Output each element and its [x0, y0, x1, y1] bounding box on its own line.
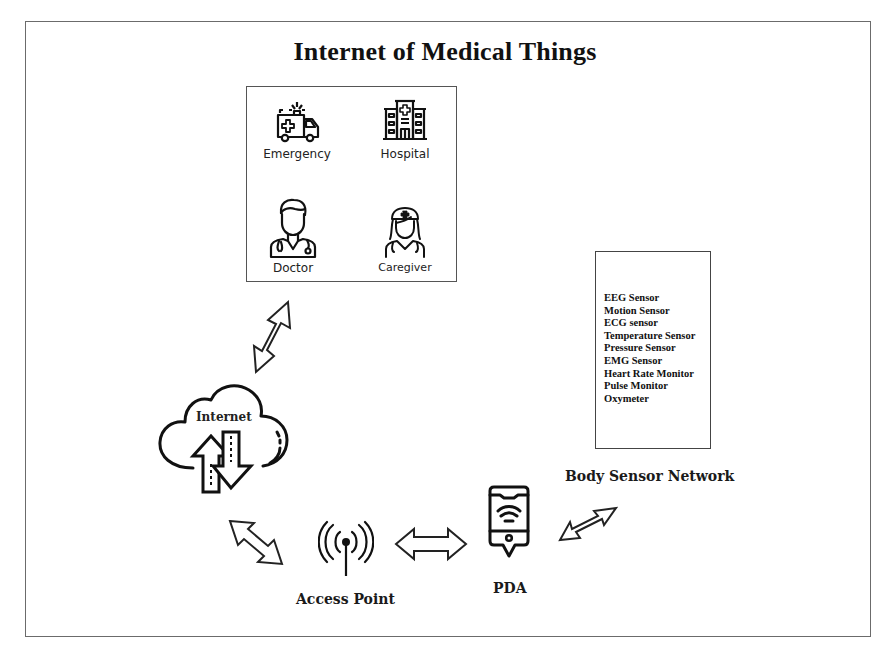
- care-item-hospital: Hospital: [365, 95, 445, 161]
- care-item-label: Hospital: [365, 147, 445, 161]
- access-point-label: Access Point: [296, 591, 395, 607]
- doctor-icon: [267, 197, 319, 259]
- sensor-item: Heart Rate Monitor: [604, 368, 695, 381]
- sensor-item: Pressure Sensor: [604, 342, 695, 355]
- care-item-label: Caregiver: [365, 261, 445, 274]
- hospital-icon: [380, 95, 430, 145]
- care-item-caregiver: Caregiver: [365, 205, 445, 274]
- sensor-item: EMG Sensor: [604, 355, 695, 368]
- body-sensor-network-label: Body Sensor Network: [565, 468, 734, 484]
- sensor-item: Motion Sensor: [604, 305, 695, 318]
- care-providers-box: Emergency Hospital: [246, 86, 457, 282]
- sensor-item: Oxymeter: [604, 393, 695, 406]
- pda-label: PDA: [493, 580, 527, 596]
- care-item-doctor: Doctor: [253, 197, 333, 275]
- diagram-title: Internet of Medical Things: [0, 37, 890, 67]
- ambulance-icon: [272, 97, 322, 145]
- nurse-icon: [383, 205, 427, 259]
- antenna-signal-icon: [318, 520, 374, 576]
- sensor-item: Pulse Monitor: [604, 380, 695, 393]
- bidirectional-arrow-icon: [248, 298, 296, 378]
- sensor-list: EEG Sensor Motion Sensor ECG sensor Temp…: [604, 292, 695, 405]
- sensor-item: Temperature Sensor: [604, 330, 695, 343]
- care-item-emergency: Emergency: [257, 97, 337, 161]
- sensor-item: EEG Sensor: [604, 292, 695, 305]
- sensor-list-box: EEG Sensor Motion Sensor ECG sensor Temp…: [595, 251, 711, 449]
- bidirectional-arrow-icon: [228, 518, 286, 568]
- internet-label: Internet: [196, 410, 252, 424]
- bidirectional-arrow-icon: [558, 504, 618, 544]
- sensor-item: ECG sensor: [604, 317, 695, 330]
- care-item-label: Doctor: [253, 261, 333, 275]
- care-item-label: Emergency: [257, 147, 337, 161]
- cloud-upload-download-icon: [155, 380, 295, 495]
- bidirectional-arrow-icon: [394, 526, 468, 562]
- smartphone-wifi-icon: [486, 484, 532, 560]
